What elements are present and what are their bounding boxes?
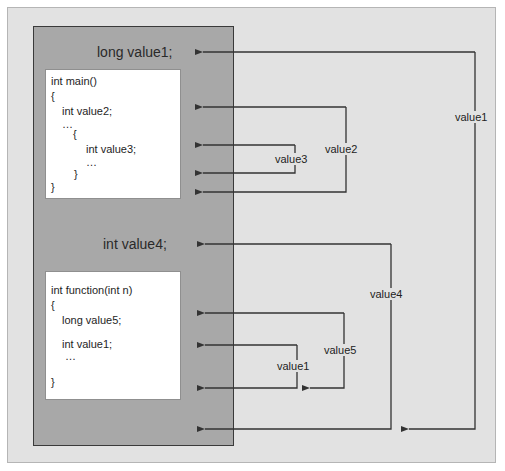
value1-global-arrow-bottom	[409, 52, 475, 429]
scope-label-value1-global: value1	[454, 111, 488, 123]
scope-label-value5: value5	[323, 344, 357, 356]
scope-diagram: long value1; int value4; int main() { in…	[0, 0, 505, 471]
scope-label-value2: value2	[324, 143, 358, 155]
scope-label-value4: value4	[369, 288, 403, 300]
scope-label-value3: value3	[274, 153, 308, 165]
scope-label-value1-local: value1	[276, 360, 310, 372]
scope-arrows	[0, 0, 505, 471]
